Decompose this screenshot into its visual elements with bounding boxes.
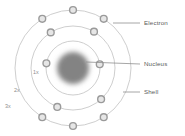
shell-label-3s: 3x (5, 104, 11, 109)
electron-2s-3 (91, 28, 98, 35)
callout-label-shell: Shell (144, 89, 159, 95)
electron-2s-2 (98, 96, 105, 103)
electron-2s-1 (54, 104, 61, 111)
electron-3s-1 (39, 114, 46, 121)
electron-2s-4 (47, 29, 54, 36)
shell-label-2s: 2x (14, 88, 20, 93)
callout-label-electron: Electron (144, 20, 168, 26)
electron-3s-5 (70, 7, 77, 14)
electron-3s-2 (70, 123, 77, 130)
electron-1s-2 (96, 61, 103, 68)
leader-line-nucleus (86, 62, 140, 64)
electron-3s-6 (39, 15, 46, 22)
callout-label-nucleus: Nucleus (144, 61, 167, 67)
atom-diagram: ElectronNucleusShell1x2x3x (0, 0, 185, 136)
electron-3s-3 (100, 114, 107, 121)
nucleus (57, 52, 89, 84)
electron-1s-1 (43, 60, 50, 67)
nucleus-blob (57, 52, 89, 84)
electron-3s-4 (100, 15, 107, 22)
shell-label-1s: 1x (33, 70, 39, 75)
